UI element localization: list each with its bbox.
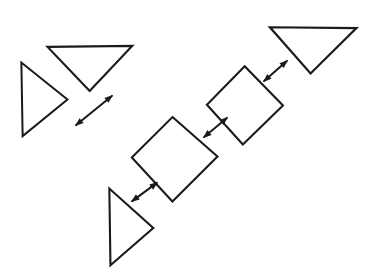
shape-diagram <box>0 0 374 280</box>
right-pointing-triangle <box>21 63 67 137</box>
rotated-square <box>132 117 218 201</box>
down-pointing-triangle <box>48 46 133 91</box>
double-headed-arrow <box>75 95 113 126</box>
right-pointing-triangle <box>109 189 153 266</box>
shapes-layer <box>21 27 356 265</box>
double-headed-arrow <box>263 60 288 82</box>
rotated-square <box>207 66 283 144</box>
diagram-canvas <box>0 0 374 280</box>
double-headed-arrow <box>131 182 158 202</box>
double-headed-arrow <box>203 117 228 138</box>
